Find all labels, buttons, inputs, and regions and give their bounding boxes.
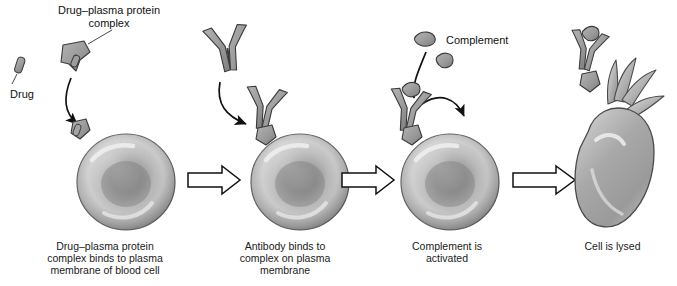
blood-cell xyxy=(401,134,499,230)
antibody-binding-arrow xyxy=(219,82,246,124)
complement-arrow-2 xyxy=(422,98,464,116)
panel-1-caption: Drug–plasma protein complex binds to pla… xyxy=(30,240,180,277)
blood-cell xyxy=(251,134,349,230)
panel-3-caption: Complement is activated xyxy=(372,240,522,264)
blood-cell xyxy=(77,134,175,230)
complex-label-line2: complex xyxy=(89,17,130,29)
antibody-icon xyxy=(203,23,253,74)
panel-1: Drug–plasma protein complex Drug Drug–pl… xyxy=(0,0,190,286)
bound-antibody-icon xyxy=(242,85,288,132)
binding-arrow xyxy=(66,78,77,124)
figure-canvas: Drug–plasma protein complex Drug Drug–pl… xyxy=(0,0,677,286)
complex-label-line1: Drug–plasma protein xyxy=(58,4,160,16)
bound-complement-icon xyxy=(402,82,420,96)
bound-complex-icon xyxy=(402,125,422,145)
panel-4-caption: Cell is lysed xyxy=(548,240,677,252)
drug-plasma-protein-complex-icon xyxy=(61,30,112,71)
panel-1-art xyxy=(0,0,190,240)
lysed-cell xyxy=(575,108,654,227)
panel-4: Cell is lysed xyxy=(548,0,677,286)
drug-label: Drug xyxy=(0,88,44,101)
bound-complex-icon xyxy=(71,119,90,139)
panel-4-art xyxy=(548,0,677,240)
complex-label: Drug–plasma protein complex xyxy=(44,4,174,30)
panel-3: Complement Complement is activated xyxy=(360,0,535,286)
bound-complement-icon xyxy=(582,26,599,40)
drug-molecule-icon xyxy=(12,56,26,84)
bound-complex-icon xyxy=(580,71,600,92)
panel-2-caption: Antibody binds to complex on plasma memb… xyxy=(210,240,360,277)
